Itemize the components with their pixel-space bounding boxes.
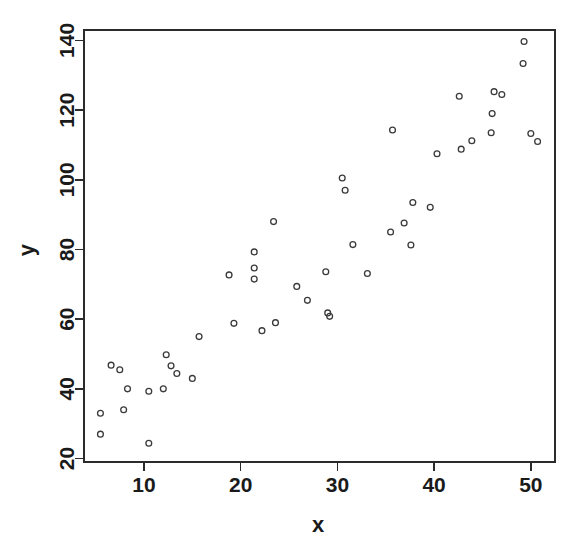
- data-point: [98, 410, 104, 416]
- data-point: [305, 297, 311, 303]
- data-point: [121, 407, 127, 413]
- y-tick-label: 60: [56, 307, 79, 330]
- data-point: [520, 61, 526, 67]
- data-point: [535, 139, 541, 145]
- data-point: [251, 265, 257, 271]
- x-tick-label: 30: [326, 473, 349, 496]
- data-point: [350, 242, 356, 248]
- data-point: [408, 242, 414, 248]
- data-point: [251, 276, 257, 282]
- y-tick-label: 120: [56, 93, 79, 128]
- data-point: [163, 352, 169, 358]
- data-point: [160, 386, 166, 392]
- data-point: [488, 130, 494, 136]
- data-point: [259, 328, 265, 334]
- y-tick-label: 140: [56, 23, 79, 58]
- data-point: [434, 151, 440, 157]
- x-axis-title: x: [312, 512, 325, 537]
- data-point: [456, 93, 462, 99]
- data-point: [489, 111, 495, 117]
- chart-canvas: 20406080100120140 1020304050 y x: [0, 0, 586, 558]
- y-axis-title: y: [14, 243, 39, 256]
- data-points-layer: [98, 39, 541, 446]
- data-point: [521, 39, 527, 45]
- data-point: [458, 146, 464, 152]
- x-tick-label: 40: [422, 473, 445, 496]
- y-tick-label: 100: [56, 162, 79, 197]
- data-point: [339, 175, 345, 181]
- y-axis: 20406080100120140: [56, 23, 85, 470]
- data-point: [168, 363, 174, 369]
- data-point: [125, 386, 131, 392]
- x-tick-label: 20: [229, 473, 252, 496]
- data-point: [189, 375, 195, 381]
- data-point: [427, 204, 433, 210]
- data-point: [98, 431, 104, 437]
- data-point: [294, 284, 300, 290]
- data-point: [271, 219, 277, 225]
- y-tick-label: 80: [56, 238, 79, 261]
- x-axis: 1020304050: [132, 462, 542, 496]
- data-point: [528, 131, 534, 137]
- data-point: [342, 187, 348, 193]
- data-point: [499, 92, 505, 98]
- data-point: [146, 388, 152, 394]
- scatter-plot-figure: 20406080100120140 1020304050 y x: [0, 0, 586, 558]
- data-point: [273, 320, 279, 326]
- plot-border: [84, 30, 555, 462]
- y-tick-label: 40: [56, 377, 79, 400]
- data-point: [108, 362, 114, 368]
- data-point: [196, 334, 202, 340]
- data-point: [390, 127, 396, 133]
- data-point: [117, 367, 123, 373]
- x-tick-label: 10: [132, 473, 155, 496]
- data-point: [231, 320, 237, 326]
- x-tick-label: 50: [519, 473, 542, 496]
- data-point: [364, 271, 370, 277]
- data-point: [146, 440, 152, 446]
- plot-frame: [84, 30, 555, 462]
- data-point: [323, 269, 329, 275]
- data-point: [469, 138, 475, 144]
- data-point: [226, 272, 232, 278]
- data-point: [388, 229, 394, 235]
- data-point: [174, 371, 180, 377]
- y-tick-label: 20: [56, 447, 79, 470]
- data-point: [401, 220, 407, 226]
- data-point: [410, 200, 416, 206]
- data-point: [491, 89, 497, 95]
- data-point: [251, 249, 257, 255]
